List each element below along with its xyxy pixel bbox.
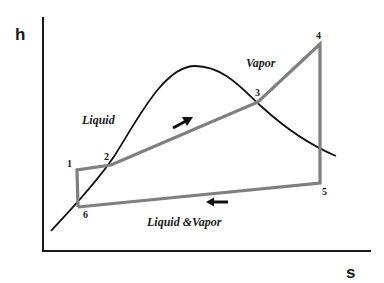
arrow-heating-direction [173, 117, 193, 128]
axes: h s [15, 17, 371, 282]
arrow-condensing-direction [206, 198, 228, 207]
point-label-3: 3 [255, 87, 260, 98]
region-label-liquid: Liquid [81, 113, 116, 127]
point-label-6: 6 [83, 209, 88, 220]
arrowhead-left-icon [206, 198, 214, 207]
point-label-1: 1 [67, 158, 72, 169]
point-label-4: 4 [316, 30, 321, 41]
region-label-mixture: Liquid &Vapor [146, 215, 222, 229]
y-axis-label: h [15, 25, 25, 44]
point-label-2: 2 [104, 151, 109, 162]
region-label-vapor: Vapor [246, 56, 276, 70]
x-axis-label: s [346, 263, 355, 282]
hs-diagram: h s Liquid Vapor Liquid &Vapor 1 2 3 4 5… [0, 0, 384, 283]
point-label-5: 5 [322, 186, 327, 197]
